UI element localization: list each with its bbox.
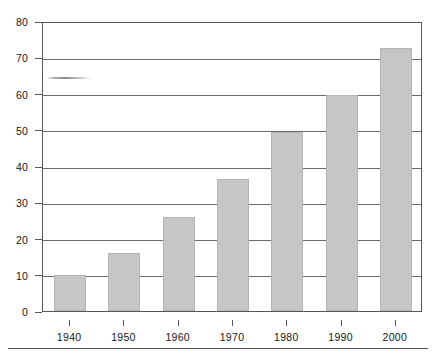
y-tick-label-20: 20 bbox=[16, 235, 28, 246]
gridline-50 bbox=[43, 131, 421, 132]
x-tick-label-1950: 1950 bbox=[111, 332, 136, 343]
y-tick-label-40: 40 bbox=[16, 162, 28, 173]
y-tick-mark-60 bbox=[35, 94, 42, 95]
y-tick-mark-10 bbox=[35, 275, 42, 276]
x-tick-mark-1990 bbox=[341, 320, 342, 326]
gridline-70 bbox=[43, 59, 421, 60]
y-tick-mark-20 bbox=[35, 239, 42, 240]
y-tick-label-80: 80 bbox=[16, 17, 28, 28]
chart-page: 01020304050607080 1940195019601970198019… bbox=[0, 0, 436, 361]
horizontal-rule bbox=[8, 348, 428, 349]
y-tick-mark-40 bbox=[35, 167, 42, 168]
x-tick-mark-1960 bbox=[178, 320, 179, 326]
x-tick-label-1990: 1990 bbox=[328, 332, 353, 343]
bar-1990 bbox=[326, 95, 358, 311]
x-tick-mark-1950 bbox=[123, 320, 124, 326]
bar-2000 bbox=[380, 48, 412, 311]
x-axis: 1940195019601970198019902000 bbox=[42, 320, 422, 350]
bar-1940 bbox=[54, 275, 86, 311]
x-tick-label-1980: 1980 bbox=[274, 332, 299, 343]
y-tick-mark-30 bbox=[35, 203, 42, 204]
y-tick-mark-0 bbox=[35, 312, 42, 313]
y-tick-label-30: 30 bbox=[16, 198, 28, 209]
bar-1960 bbox=[163, 217, 195, 311]
y-tick-label-10: 10 bbox=[16, 271, 28, 282]
x-tick-label-1970: 1970 bbox=[220, 332, 245, 343]
bar-1970 bbox=[217, 179, 249, 311]
x-tick-label-2000: 2000 bbox=[383, 332, 408, 343]
x-tick-mark-2000 bbox=[395, 320, 396, 326]
y-tick-label-50: 50 bbox=[16, 126, 28, 137]
gridline-40 bbox=[43, 168, 421, 169]
y-tick-label-0: 0 bbox=[22, 307, 28, 318]
bar-1980 bbox=[271, 132, 303, 311]
y-axis: 01020304050607080 bbox=[0, 0, 42, 361]
y-tick-mark-50 bbox=[35, 130, 42, 131]
y-tick-mark-80 bbox=[35, 22, 42, 23]
x-tick-mark-1970 bbox=[232, 320, 233, 326]
x-tick-mark-1980 bbox=[286, 320, 287, 326]
gridline-60 bbox=[43, 95, 421, 96]
x-tick-mark-1940 bbox=[69, 320, 70, 326]
y-tick-mark-70 bbox=[35, 58, 42, 59]
x-tick-label-1960: 1960 bbox=[165, 332, 190, 343]
plot-area bbox=[42, 22, 422, 312]
x-tick-label-1940: 1940 bbox=[57, 332, 82, 343]
y-tick-label-70: 70 bbox=[16, 53, 28, 64]
bar-1950 bbox=[108, 253, 140, 311]
y-tick-label-60: 60 bbox=[16, 90, 28, 101]
